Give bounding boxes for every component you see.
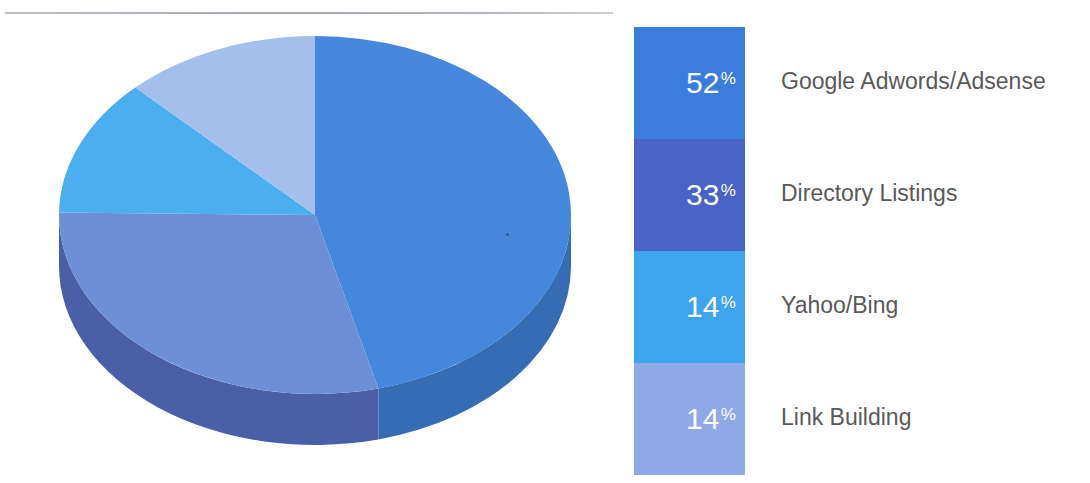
legend-swatch: 14% — [634, 363, 745, 475]
percent-symbol: % — [721, 294, 736, 311]
legend-percent: 14% — [686, 404, 736, 434]
legend-percent-value: 14 — [686, 404, 720, 434]
legend-label: Link Building — [781, 405, 911, 430]
percent-symbol: % — [721, 182, 736, 199]
legend-swatch: 52% — [634, 27, 745, 139]
legend-label: Google Adwords/Adsense — [781, 69, 1046, 94]
legend-swatch-column: 52%33%14%14% — [634, 27, 745, 475]
legend-percent-value: 33 — [686, 180, 720, 210]
pie-chart — [0, 18, 620, 483]
legend-label: Directory Listings — [781, 181, 957, 206]
legend-swatch: 33% — [634, 139, 745, 251]
legend-swatch: 14% — [634, 251, 745, 363]
legend-percent-value: 52 — [686, 68, 720, 98]
legend-percent: 52% — [686, 68, 736, 98]
slide-canvas: 52%33%14%14% Google Adwords/AdsenseDirec… — [0, 0, 1090, 483]
legend-percent: 14% — [686, 292, 736, 322]
pie-chart-svg — [0, 18, 620, 483]
legend-label: Yahoo/Bing — [781, 293, 898, 318]
legend-percent-value: 14 — [686, 292, 720, 322]
percent-symbol: % — [721, 70, 736, 87]
legend-percent: 33% — [686, 180, 736, 210]
header-divider-rule — [5, 12, 613, 14]
percent-symbol: % — [721, 406, 736, 423]
pie-top-faces — [59, 36, 571, 394]
image-speck — [506, 233, 509, 236]
chart-legend: 52%33%14%14% Google Adwords/AdsenseDirec… — [634, 27, 1086, 477]
